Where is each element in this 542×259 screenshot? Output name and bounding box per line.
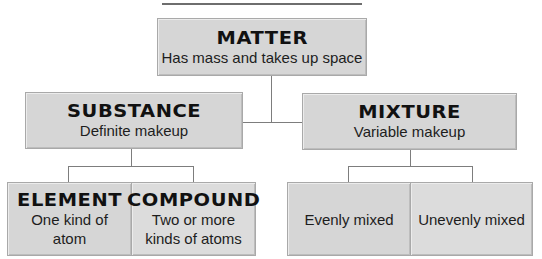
connector-matter-stem [271, 76, 272, 123]
node-matter-heading: MATTER [216, 28, 307, 48]
connector-matter-bar [243, 122, 302, 123]
connector-substance-left-drop [68, 166, 69, 182]
connector-substance-bar [68, 166, 194, 167]
node-compound-description-line2: kinds of atoms [145, 229, 242, 248]
node-mixture-description: Variable makeup [354, 122, 465, 141]
node-evenly-mixed-description: Evenly mixed [304, 210, 393, 229]
node-matter: MATTER Has mass and takes up space [157, 18, 367, 76]
title-underline [162, 3, 362, 5]
node-element-heading: ELEMENT [17, 190, 122, 210]
node-matter-description: Has mass and takes up space [162, 48, 363, 67]
node-mixture: MIXTURE Variable makeup [302, 93, 517, 150]
node-compound: COMPOUND Two or more kinds of atoms [131, 182, 256, 256]
node-element-description-line1: One kind of [31, 210, 108, 229]
node-compound-heading: COMPOUND [127, 190, 260, 210]
node-unevenly-mixed: Unevenly mixed [410, 182, 533, 256]
node-unevenly-mixed-description: Unevenly mixed [418, 210, 525, 229]
node-element-description-line2: atom [53, 229, 86, 248]
node-substance: SUBSTANCE Definite makeup [25, 92, 243, 149]
connector-mixture-bar [348, 166, 473, 167]
node-substance-description: Definite makeup [80, 121, 188, 140]
node-compound-description-line1: Two or more [152, 210, 235, 229]
connector-mixture-left-drop [348, 166, 349, 182]
node-mixture-heading: MIXTURE [358, 102, 461, 122]
connector-mixture-stem [410, 150, 411, 166]
connector-substance-right-drop [193, 166, 194, 182]
node-substance-heading: SUBSTANCE [67, 101, 201, 121]
connector-mixture-right-drop [472, 166, 473, 182]
connector-substance-stem [131, 149, 132, 166]
node-element: ELEMENT One kind of atom [7, 182, 132, 256]
node-evenly-mixed: Evenly mixed [287, 182, 411, 256]
